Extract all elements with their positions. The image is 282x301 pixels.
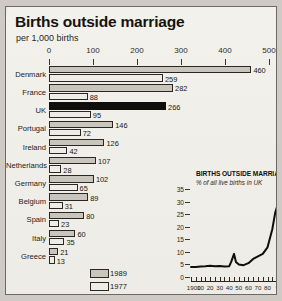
- category-label-portugal: Portugal: [6, 124, 46, 133]
- bar-uk-1977: [49, 111, 91, 118]
- category-label-ireland: Ireland: [6, 142, 46, 151]
- bar-value-label: 102: [96, 175, 108, 184]
- legend-swatch-1989: [90, 269, 109, 278]
- inset-x-tick-label: 20: [207, 284, 214, 291]
- legend-item-1977: 1977: [90, 282, 140, 292]
- bar-italy-1989: [49, 230, 75, 237]
- inset-x-tick: [248, 277, 249, 281]
- bar-ireland-1977: [49, 147, 67, 154]
- inset-y-tick: [185, 189, 190, 190]
- inset-x-tick: [272, 277, 273, 281]
- inset-x-tick: [239, 277, 240, 281]
- inset-x-tick-label: 10: [197, 284, 204, 291]
- inset-x-tick: [210, 277, 211, 281]
- legend-swatch-1977: [90, 282, 109, 291]
- category-label-belgium: Belgium: [6, 197, 46, 206]
- inset-y-tick-label: 15: [172, 236, 184, 243]
- inset-y-tick-label: 20: [172, 223, 184, 230]
- inset-x-tick: [253, 277, 254, 281]
- bar-denmark-1989: [49, 66, 251, 73]
- inset-y-tick: [185, 264, 190, 265]
- bar-france-1977: [49, 93, 88, 100]
- inset-y-tick: [185, 202, 190, 203]
- legend-label: 1977: [110, 282, 127, 291]
- inset-x-tick: [258, 277, 259, 281]
- bar-netherlands-1977: [49, 165, 61, 172]
- inset-x-tick-label: 80: [264, 284, 271, 291]
- category-label-denmark: Denmark: [6, 69, 46, 78]
- inset-x-tick: [215, 277, 216, 281]
- bar-value-label: 146: [115, 120, 127, 129]
- bar-value-label: 60: [77, 230, 85, 239]
- bar-value-label: 35: [66, 238, 74, 247]
- inset-x-tick-label: 30: [216, 284, 223, 291]
- inset-y-tick-label: 25: [172, 211, 184, 218]
- bar-value-label: 95: [93, 110, 101, 119]
- bar-ireland-1989: [49, 139, 104, 146]
- bar-belgium-1977: [49, 202, 63, 209]
- bar-france-1989: [49, 84, 173, 91]
- category-label-greece: Greece: [6, 251, 46, 260]
- bar-value-label: 460: [253, 66, 265, 75]
- bar-value-label: 259: [165, 74, 177, 83]
- inset-y-tick: [185, 214, 190, 215]
- inset-subtitle: % of all live births in UK: [196, 179, 262, 186]
- inset-x-tick: [205, 277, 206, 281]
- inset-x-tick-label: 60: [245, 284, 252, 291]
- bar-value-label: 65: [80, 183, 88, 192]
- category-label-italy: Italy: [6, 233, 46, 242]
- inset-x-tick: [263, 277, 264, 281]
- inset-x-tick: [191, 277, 192, 281]
- chart-card: Births outside marriage per 1,000 births…: [5, 6, 277, 295]
- inset-y-tick: [185, 239, 190, 240]
- bar-uk-1989: [49, 102, 166, 109]
- bar-netherlands-1989: [49, 157, 96, 164]
- inset-x-tick: [268, 277, 269, 281]
- category-label-uk: UK: [6, 106, 46, 115]
- bar-value-label: 89: [90, 193, 98, 202]
- category-label-france: France: [6, 88, 46, 97]
- bar-value-label: 107: [98, 157, 110, 166]
- screenshot-root: Births outside marriage per 1,000 births…: [0, 0, 282, 301]
- bar-denmark-1977: [49, 74, 163, 81]
- inset-x-tick: [224, 277, 225, 281]
- bar-value-label: 13: [57, 256, 65, 265]
- bar-spain-1989: [49, 212, 84, 219]
- bar-value-label: 88: [90, 92, 98, 101]
- bar-value-label: 28: [63, 165, 71, 174]
- inset-y-tick-label: 30: [172, 198, 184, 205]
- inset-y-tick-label: 10: [172, 248, 184, 255]
- legend-item-1989: 1989: [90, 269, 140, 279]
- category-label-netherlands: Netherlands: [6, 160, 46, 169]
- inset-x-tick: [201, 277, 202, 281]
- inset-x-tick-label: 40: [226, 284, 233, 291]
- inset-y-tick: [185, 277, 190, 278]
- inset-y-tick-label: 0: [172, 274, 184, 281]
- bar-spain-1977: [49, 220, 59, 227]
- category-label-germany: Germany: [6, 179, 46, 188]
- bar-value-label: 42: [69, 147, 77, 156]
- inset-x-tick: [244, 277, 245, 281]
- inset-x-axis-line: [191, 281, 277, 282]
- inset-line-chart: BIRTHS OUTSIDE MARRIAGE % of all live bi…: [172, 167, 277, 295]
- bar-greece-1977: [49, 256, 55, 263]
- bar-value-label: 282: [175, 84, 187, 93]
- bar-value-label: 31: [65, 201, 73, 210]
- inset-x-tick: [234, 277, 235, 281]
- inset-y-tick-label: 5: [172, 261, 184, 268]
- inset-y-tick-label: 35: [172, 186, 184, 193]
- category-label-spain: Spain: [6, 215, 46, 224]
- bar-portugal-1977: [49, 129, 81, 136]
- inset-line-path: [191, 199, 277, 267]
- bar-greece-1989: [49, 248, 58, 255]
- inset-x-tick: [229, 277, 230, 281]
- bar-value-label: 23: [61, 220, 69, 229]
- inset-x-tick: [196, 277, 197, 281]
- inset-line-series: [172, 167, 277, 295]
- inset-x-tick-label: 70: [255, 284, 262, 291]
- bar-value-label: 126: [106, 139, 118, 148]
- bar-value-label: 266: [168, 102, 180, 111]
- bar-italy-1977: [49, 238, 64, 245]
- inset-y-tick: [185, 227, 190, 228]
- bar-value-label: 72: [83, 129, 91, 138]
